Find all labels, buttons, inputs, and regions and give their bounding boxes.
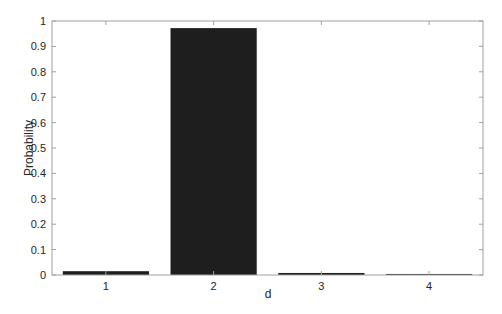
y-tick-label: 0.7 [31,91,46,103]
y-axis-ticks: 00.10.20.30.40.50.60.70.80.91 [31,15,483,281]
x-axis-label: d [265,287,272,301]
y-tick-label: 0.2 [31,218,46,230]
x-tick-label: 1 [103,280,109,292]
y-tick-label: 0 [40,269,46,281]
y-tick-label: 0.3 [31,193,46,205]
bar-chart: 00.10.20.30.40.50.60.70.80.91 1234 d Pro… [0,0,502,314]
y-tick-label: 0.1 [31,244,46,256]
y-axis-label: Probability [22,120,36,176]
plot-area-frame [52,21,483,275]
y-tick-label: 0.8 [31,66,46,78]
x-axis-ticks: 1234 [103,21,432,292]
x-tick-label: 3 [318,280,324,292]
bars-group [63,28,472,275]
y-tick-label: 0.9 [31,40,46,52]
x-tick-label: 2 [211,280,217,292]
bar-2 [171,28,257,275]
x-tick-label: 4 [426,280,432,292]
y-tick-label: 1 [40,15,46,27]
